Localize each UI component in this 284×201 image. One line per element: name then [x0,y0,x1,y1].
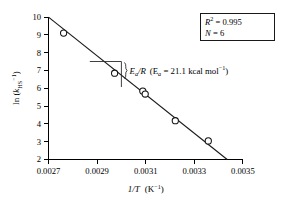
y-axis-label-prefix: ln ( [11,93,21,105]
chart-svg: 2 3 4 5 6 7 8 9 10 0.0027 0.0029 0.0031 … [0,0,284,201]
x-axis-label: 1/T(K−1) [128,183,164,194]
x-axis-label-unit-open: (K [145,184,155,194]
y-axis-ticks [44,17,49,159]
slope-annotation: Ea/R(Ea = 21.1 kcal mol−1) [129,64,229,77]
arrhenius-plot-figure: 2 3 4 5 6 7 8 9 10 0.0027 0.0029 0.0031 … [0,0,284,201]
x-tick-label-0027: 0.0027 [37,166,61,176]
svg-text:1/T(K−1): 1/T(K−1) [128,183,164,194]
legend-n-value: = 6 [211,28,225,38]
data-point [112,70,118,76]
y-axis-label-suffix: ) [11,71,21,74]
x-axis-ticks [49,160,243,165]
data-point [172,118,178,124]
y-tick-label-10: 10 [32,12,41,22]
annotation-unit-sup: −1 [219,64,226,71]
annotation-paren-close: ) [225,66,228,76]
x-axis-label-unit-close: ) [161,184,164,194]
annotation-value: = 21.1 kcal mol [161,66,219,76]
y-tick-label-4: 4 [37,119,42,129]
data-point [142,91,148,97]
x-axis-tick-labels: 0.0027 0.0029 0.0031 0.0033 0.0035 [37,166,255,176]
y-axis-label: ln (kHS−1) [10,71,23,105]
annotation-over-r: /R [137,66,146,76]
x-tick-label-0033: 0.0033 [182,166,206,176]
slope-brace [125,63,128,79]
x-tick-label-0035: 0.0035 [231,166,255,176]
y-tick-label-5: 5 [37,101,41,111]
x-tick-label-0031: 0.0031 [134,166,158,176]
y-tick-label-7: 7 [37,65,42,75]
y-tick-label-6: 6 [37,83,42,93]
legend-box: R2 = 0.995 N = 6 [201,14,275,41]
svg-text:Ea/R(Ea = 21.1 kcal mol−1): Ea/R(Ea = 21.1 kcal mol−1) [129,64,229,77]
y-tick-label-3: 3 [37,137,41,147]
y-axis-tick-labels: 2 3 4 5 6 7 8 9 10 [32,12,41,164]
data-point [61,30,67,36]
y-tick-label-8: 8 [37,48,41,58]
legend-item-r-squared: R2 = 0.995 [204,15,242,26]
legend-item-n: N = 6 [204,28,225,38]
annotation-paren-open: (E [150,66,158,76]
brace-path [125,63,128,79]
legend-r-value: = 0.995 [213,17,241,27]
y-tick-label-2: 2 [37,154,41,164]
data-point [205,138,211,144]
x-axis-label-main: 1/T [128,184,141,194]
x-tick-label-0029: 0.0029 [85,166,109,176]
y-tick-label-9: 9 [37,30,41,40]
svg-text:ln (kHS−1): ln (kHS−1) [10,71,23,105]
